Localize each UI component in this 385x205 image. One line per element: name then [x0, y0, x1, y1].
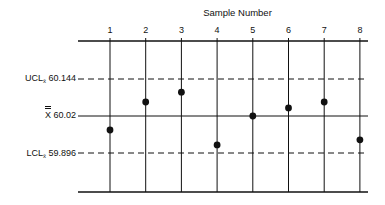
data-point [321, 99, 328, 106]
data-point [142, 99, 149, 106]
data-point [249, 113, 256, 120]
data-point [357, 136, 364, 143]
data-point [178, 89, 185, 96]
control-chart-plot [0, 0, 385, 205]
data-point [107, 127, 114, 134]
data-point [214, 142, 221, 149]
data-point [285, 105, 292, 112]
